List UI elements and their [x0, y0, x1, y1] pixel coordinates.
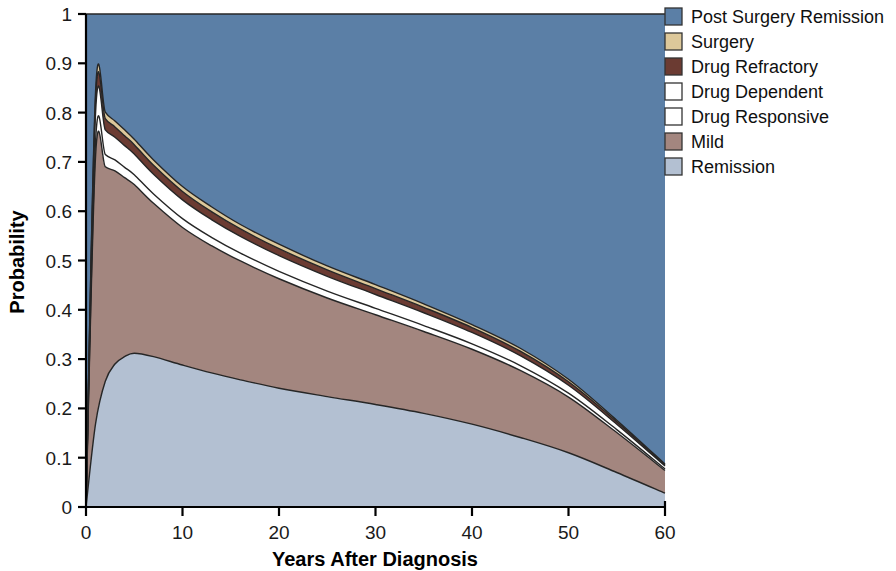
y-tick-label: 0.8: [46, 103, 72, 124]
x-tick-label: 50: [558, 522, 579, 543]
x-tick-label: 40: [461, 522, 482, 543]
chart-figure: 0102030405060 00.10.20.30.40.50.60.70.80…: [0, 0, 896, 571]
y-tick-label: 0.7: [46, 152, 72, 173]
y-tick-labels-group: 00.10.20.30.40.50.60.70.80.91: [46, 4, 73, 518]
legend-swatch-mild: [665, 133, 682, 150]
y-tick-label: 0.6: [46, 201, 72, 222]
x-tick-labels-group: 0102030405060: [81, 522, 676, 543]
legend-swatch-drug-dependent: [665, 83, 682, 100]
y-tick-label: 0.1: [46, 448, 72, 469]
legend-label-drug-dependent: Drug Dependent: [691, 82, 823, 102]
legend-label-drug-responsive: Drug Responsive: [691, 107, 829, 127]
x-tick-label: 20: [268, 522, 289, 543]
x-tick-label: 30: [365, 522, 386, 543]
y-axis-title: Probability: [6, 209, 28, 313]
x-tick-label: 60: [654, 522, 675, 543]
legend-swatch-drug-refractory: [665, 58, 682, 75]
legend-swatch-remission: [665, 158, 682, 175]
legend-label-remission: Remission: [691, 157, 775, 177]
legend-swatch-post-surgery-remission: [665, 8, 682, 25]
y-tick-label: 1: [61, 4, 72, 25]
y-tick-label: 0: [61, 497, 72, 518]
legend-label-mild: Mild: [691, 132, 724, 152]
legend: Post Surgery RemissionSurgeryDrug Refrac…: [665, 7, 884, 177]
x-tick-label: 0: [81, 522, 92, 543]
stacked-area-chart: 0102030405060 00.10.20.30.40.50.60.70.80…: [0, 0, 896, 571]
y-tick-label: 0.5: [46, 251, 72, 272]
legend-label-drug-refractory: Drug Refractory: [691, 57, 818, 77]
legend-label-surgery: Surgery: [691, 32, 754, 52]
x-tick-label: 10: [172, 522, 193, 543]
y-tick-label: 0.9: [46, 53, 72, 74]
y-tick-label: 0.2: [46, 398, 72, 419]
x-axis-title: Years After Diagnosis: [272, 548, 478, 570]
legend-label-post-surgery-remission: Post Surgery Remission: [691, 7, 884, 27]
plot-areas-group: [86, 14, 665, 507]
legend-swatch-surgery: [665, 33, 682, 50]
y-tick-label: 0.3: [46, 349, 72, 370]
y-tick-label: 0.4: [46, 300, 73, 321]
legend-swatch-drug-responsive: [665, 108, 682, 125]
